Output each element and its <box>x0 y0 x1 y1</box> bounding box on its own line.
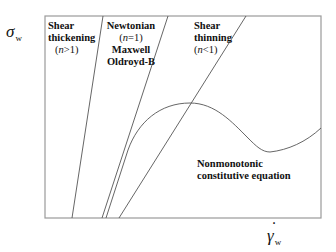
shear-thinning-label: Shear thinning (n<1) <box>194 20 232 56</box>
nonmonotonic-line2: constitutive equation <box>197 170 291 182</box>
rheology-diagram: σw ˙γw Shear thickening (n>1) Newtonian … <box>0 0 336 252</box>
shear-thinning-line1: Shear <box>194 20 232 32</box>
nonmonotonic-line1: Nonmonotonic <box>197 158 291 170</box>
cond-rest: <1) <box>203 44 218 55</box>
newtonian-condition: (n=1) <box>99 32 163 44</box>
x-axis-dot-accent: ˙ <box>272 220 276 235</box>
oldroyd-b-label: Oldroyd-B <box>99 56 163 68</box>
maxwell-label: Maxwell <box>99 44 163 56</box>
shear-thinning-line2: thinning <box>194 32 232 44</box>
y-axis-label: σw <box>6 22 21 42</box>
shear-thickening-label: Shear thickening (n>1) <box>48 20 95 56</box>
newtonian-line1: Newtonian <box>99 20 163 32</box>
nonmonotonic-label: Nonmonotonic constitutive equation <box>197 158 291 182</box>
cond-rest: >1) <box>64 44 79 55</box>
shear-thickening-line1: Shear <box>48 20 95 32</box>
y-axis-symbol: σ <box>6 22 14 41</box>
x-axis-label: ˙γw <box>267 226 280 246</box>
y-axis-subscript: w <box>15 33 22 43</box>
x-axis-subscript: w <box>275 237 282 247</box>
cond-rest: =1) <box>128 32 143 43</box>
newtonian-label: Newtonian (n=1) Maxwell Oldroyd-B <box>99 20 163 68</box>
shear-thinning-condition: (n<1) <box>194 44 232 56</box>
x-axis-symbol-wrap: ˙γ <box>267 226 274 245</box>
shear-thickening-line2: thickening <box>48 32 95 44</box>
shear-thickening-condition: (n>1) <box>48 44 95 56</box>
